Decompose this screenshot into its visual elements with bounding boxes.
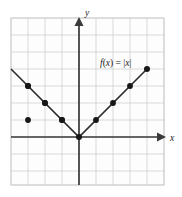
data-point: [93, 117, 99, 123]
data-point: [25, 117, 31, 123]
x-axis-label: x: [169, 133, 175, 143]
absolute-value-graph-figure: y x f(x) = |x|: [0, 0, 182, 197]
function-label-bar-right: |: [129, 58, 131, 68]
data-point: [110, 100, 116, 106]
data-point: [127, 83, 133, 89]
function-label: f(x) = |x|: [100, 58, 131, 69]
data-point: [59, 117, 65, 123]
graph-canvas: y x f(x) = |x|: [0, 0, 182, 197]
data-point: [144, 66, 150, 72]
grid-background: [11, 18, 164, 185]
y-axis-label: y: [84, 8, 90, 18]
data-point-vertex: [76, 134, 82, 140]
data-point: [42, 100, 48, 106]
data-point: [25, 83, 31, 89]
